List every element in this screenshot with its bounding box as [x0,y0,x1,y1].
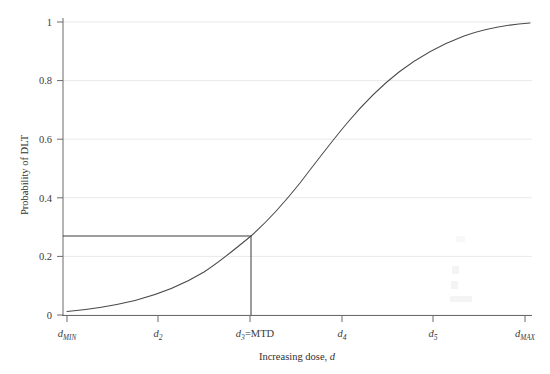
y-tick-label-1: 1 [47,17,52,28]
x-axis-title-variable: d [330,351,336,362]
y-tick-label-0-6: 0.6 [39,134,52,145]
y-axis-title: Probability of DLT [19,134,30,215]
y-tick-label-0-8: 0.8 [39,75,52,86]
x-axis-title: Increasing dose, d [259,351,336,362]
x-axis-title-prefix: Increasing dose, [259,351,330,362]
chart-background [0,0,550,374]
y-tick-label-0: 0 [47,310,52,321]
dose-toxicity-chart: 1 0.8 0.6 0.4 0.2 0 dMIN d2 d3=MTD d4 d5… [0,0,550,374]
dose-toxicity-figure: 1 0.8 0.6 0.4 0.2 0 dMIN d2 d3=MTD d4 d5… [0,0,550,374]
y-tick-label-0-2: 0.2 [39,251,52,262]
y-tick-label-0-4: 0.4 [39,193,53,204]
